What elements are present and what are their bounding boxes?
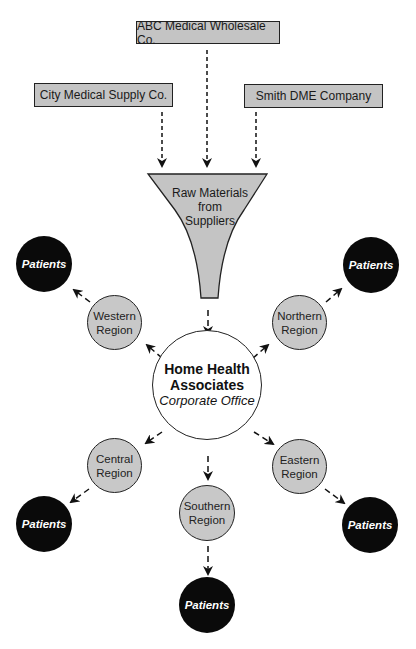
hq-circle: Home Health Associates Corporate Office: [152, 330, 262, 440]
region-southern: Southern Region: [179, 485, 235, 541]
region-northern: Northern Region: [272, 295, 327, 350]
arrow-central-to-patients: [71, 489, 89, 502]
arrow-northern-to-patients: [326, 289, 341, 302]
supplier-smith-box: Smith DME Company: [244, 84, 383, 108]
hq-subtitle: Corporate Office: [159, 393, 254, 409]
patients-northern: Patients: [343, 237, 399, 293]
arrow-western-to-patients: [74, 290, 90, 302]
patients-eastern: Patients: [342, 497, 398, 553]
hq-name-line1: Home Health: [164, 361, 250, 377]
region-central: Central Region: [87, 438, 142, 493]
arrow-eastern-to-patients: [325, 489, 344, 503]
region-eastern: Eastern Region: [272, 439, 327, 494]
arrow-hq-to-central: [146, 432, 162, 443]
supplier-city-box: City Medical Supply Co.: [34, 83, 173, 107]
region-western: Western Region: [87, 295, 142, 350]
supplier-abc-label: ABC Medical Wholesale Co.: [137, 19, 279, 47]
hq-name-line2: Associates: [170, 377, 244, 393]
patients-western: Patients: [16, 236, 72, 292]
patients-central: Patients: [16, 496, 72, 552]
arrow-hq-to-northern: [253, 345, 268, 358]
supplier-city-label: City Medical Supply Co.: [40, 88, 167, 102]
supplier-smith-label: Smith DME Company: [256, 89, 371, 103]
supplier-abc-box: ABC Medical Wholesale Co.: [136, 21, 280, 44]
arrow-hq-to-eastern: [254, 432, 273, 444]
patients-southern: Patients: [179, 577, 235, 633]
funnel-label: Raw Materials from Suppliers: [150, 186, 270, 228]
